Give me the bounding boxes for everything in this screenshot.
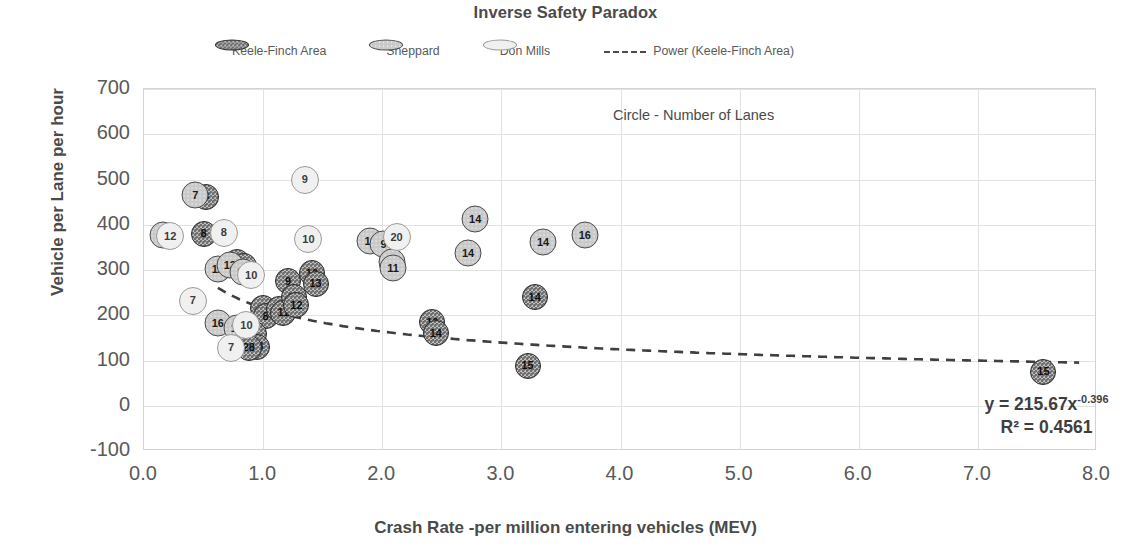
- legend-item-sheppard[interactable]: Sheppard: [386, 45, 439, 57]
- trendline-exponent: -0.396: [1077, 393, 1108, 405]
- x-tick-label: 4.0: [580, 463, 660, 483]
- legend-marker-keele-icon: [215, 40, 249, 51]
- data-point-label: 12: [290, 300, 302, 311]
- gridline-horizontal: [144, 361, 1095, 362]
- data-point: 7: [179, 287, 207, 315]
- y-tick-label: 0: [10, 394, 130, 414]
- data-point: 13: [303, 271, 329, 297]
- gridline-vertical: [621, 89, 622, 449]
- x-tick-label: 6.0: [818, 463, 898, 483]
- trendline-equation: y = 215.67x-0.396: [939, 392, 1131, 416]
- x-tick-label: 7.0: [937, 463, 1017, 483]
- data-point: 12: [283, 292, 309, 318]
- legend-item-keele-finch[interactable]: Keele-Finch Area: [232, 45, 326, 57]
- legend-marker-sheppard-icon: [369, 40, 403, 51]
- data-point-label: 15: [1037, 366, 1049, 377]
- trendline-r2: R² = 0.4561: [939, 416, 1131, 440]
- data-point-label: 10: [245, 270, 257, 281]
- data-point-label: 13: [309, 278, 321, 289]
- data-point-label: 14: [537, 236, 549, 247]
- x-tick-label: 1.0: [222, 463, 302, 483]
- data-point-label: 16: [579, 229, 591, 240]
- x-tick-label: 0.0: [103, 463, 183, 483]
- chart-root: Inverse Safety Paradox Keele-Finch Area …: [0, 0, 1131, 552]
- trendline-equation-box: y = 215.67x-0.396 R² = 0.4561: [939, 392, 1131, 440]
- gridline-horizontal: [144, 180, 1095, 181]
- data-point-label: 11: [387, 262, 399, 273]
- data-point: 10: [294, 225, 322, 253]
- data-point: 7: [182, 182, 209, 209]
- data-point-label: 9: [302, 174, 308, 185]
- y-tick-label: 500: [10, 168, 130, 188]
- data-point: 14: [530, 228, 557, 255]
- data-point: 14: [522, 284, 548, 310]
- data-point: 15: [1030, 359, 1056, 385]
- x-axis-title: Crash Rate -per million entering vehicle…: [0, 518, 1131, 538]
- gridline-horizontal: [144, 225, 1095, 226]
- legend-item-power-trendline[interactable]: Power (Keele-Finch Area): [604, 45, 794, 57]
- y-tick-label: 700: [10, 77, 130, 97]
- y-tick-label: 200: [10, 303, 130, 323]
- data-point-label: 8: [201, 228, 207, 239]
- y-tick-label: 400: [10, 213, 130, 233]
- data-point: 10: [237, 261, 265, 289]
- dashed-line-icon: [604, 51, 646, 53]
- data-point: 16: [571, 221, 598, 248]
- data-point-label: 14: [469, 213, 481, 224]
- data-point-label: 12: [164, 231, 176, 242]
- data-point-label: 7: [190, 295, 196, 306]
- chart-legend: Keele-Finch Area Sheppard Don Mills Powe…: [232, 40, 972, 62]
- gridline-horizontal: [144, 89, 1095, 90]
- data-point-label: 20: [390, 232, 402, 243]
- data-point-label: 7: [192, 190, 198, 201]
- legend-item-don-mills[interactable]: Don Mills: [500, 45, 551, 57]
- data-point: 14: [423, 320, 449, 346]
- data-point-label: 15: [521, 360, 533, 371]
- data-point-label: 7: [228, 342, 234, 353]
- data-point: 8: [210, 219, 238, 247]
- y-tick-label: -100: [10, 439, 130, 459]
- data-point-label: 10: [240, 320, 252, 331]
- data-point: 14: [462, 205, 489, 232]
- legend-label-trendline: Power (Keele-Finch Area): [653, 45, 794, 57]
- data-point: 11: [379, 254, 406, 281]
- y-tick-label: 100: [10, 349, 130, 369]
- data-point-label: 10: [302, 234, 314, 245]
- data-point: 9: [291, 166, 319, 194]
- data-point-label: 14: [529, 292, 541, 303]
- data-point: 12: [156, 222, 184, 250]
- data-point: 20: [383, 223, 411, 251]
- plot-annotation-lanes: Circle - Number of Lanes: [613, 107, 774, 123]
- x-tick-label: 3.0: [460, 463, 540, 483]
- gridline-horizontal: [144, 134, 1095, 135]
- y-tick-label: 300: [10, 258, 130, 278]
- y-tick-label: 600: [10, 122, 130, 142]
- legend-marker-donmills-icon: [483, 40, 517, 51]
- gridline-vertical: [501, 89, 502, 449]
- x-tick-label: 2.0: [341, 463, 421, 483]
- data-point-label: 14: [430, 328, 442, 339]
- x-tick-label: 8.0: [1056, 463, 1131, 483]
- chart-title: Inverse Safety Paradox: [0, 3, 1131, 22]
- data-point: 7: [217, 334, 245, 362]
- trendline-equation-text: y = 215.67x: [984, 394, 1077, 414]
- plot-area: 8813139811119121212131092828131414151573…: [143, 88, 1096, 450]
- gridline-vertical: [859, 89, 860, 449]
- data-point-label: 8: [221, 227, 227, 238]
- data-point: 14: [455, 239, 482, 266]
- gridline-vertical: [740, 89, 741, 449]
- data-point: 15: [515, 353, 541, 379]
- data-point-label: 16: [212, 317, 224, 328]
- data-point-label: 14: [462, 247, 474, 258]
- x-tick-label: 5.0: [699, 463, 779, 483]
